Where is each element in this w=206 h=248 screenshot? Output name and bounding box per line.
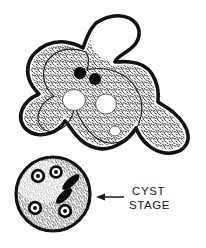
trophozoite-vacuole <box>96 94 117 114</box>
amoeba-illustration: CYST STAGE <box>0 0 206 248</box>
cyst-nucleus <box>31 169 45 183</box>
cyst-stage-annotation: CYST STAGE <box>96 185 170 211</box>
trophozoite-nucleus <box>89 73 101 85</box>
cyst-nucleus <box>49 165 63 179</box>
amoeba-figure: CYST STAGE <box>0 0 206 248</box>
cyst-stage-arrow-head <box>96 194 105 201</box>
cyst-nucleus <box>28 201 42 215</box>
trophozoite-nucleus <box>74 67 86 79</box>
cyst-stage-label-line2: STAGE <box>129 199 170 211</box>
cyst-group <box>16 157 90 231</box>
trophozoite-vacuole <box>63 90 86 111</box>
cyst-nucleus <box>58 204 72 218</box>
trophozoite-group <box>21 16 189 153</box>
cyst-stage-label-line1: CYST <box>132 185 165 197</box>
trophozoite-vacuole <box>110 126 121 136</box>
